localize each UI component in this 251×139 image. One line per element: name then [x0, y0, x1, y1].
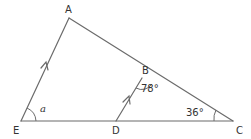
vertex-label-b: B: [142, 65, 149, 76]
angle-label-78: 78°: [141, 83, 159, 94]
vertex-label-c: C: [236, 125, 243, 136]
segment-ac: [69, 18, 233, 121]
vertex-label-e: E: [13, 125, 19, 136]
angle-arc-e: [27, 108, 36, 121]
parallel-arrow-icon-ae: [41, 62, 48, 70]
angle-label-a: a: [40, 103, 46, 114]
vertex-label-d: D: [112, 125, 120, 136]
triangle-diagram: A B E D C a 78° 36°: [0, 0, 251, 139]
angle-label-36: 36°: [186, 107, 204, 118]
angle-arc-c: [214, 110, 216, 121]
vertex-label-a: A: [65, 4, 72, 15]
